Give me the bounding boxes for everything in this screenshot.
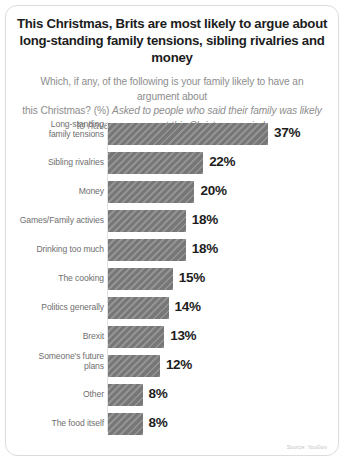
bar	[108, 384, 143, 406]
chart-card: This Christmas, Brits are most likely to…	[5, 5, 339, 456]
bar-value-label: 12%	[166, 357, 192, 372]
bar-value-label: 18%	[192, 241, 218, 256]
bar-category-label: Drinking too much	[12, 244, 104, 254]
bar-row: Drinking too much18%	[6, 239, 340, 261]
bar-category-label: The cooking	[12, 273, 104, 283]
source-attribution: Source: YouGov	[287, 444, 327, 450]
bar-row: Someone's futureplans12%	[6, 355, 340, 377]
bar	[108, 152, 203, 174]
bar	[108, 326, 164, 348]
bar	[108, 413, 143, 435]
bar-row: Other8%	[6, 384, 340, 406]
chart-subtitle-line-1: Which, if any, of the following is your …	[22, 75, 322, 104]
bar-category-label: Someone's futureplans	[12, 351, 104, 372]
bar-row: Long-standingfamily tensions37%	[6, 123, 340, 145]
bar-category-label: Money	[12, 186, 104, 196]
chart-subtitle-line-2: this Christmas? (%) Asked to people who …	[22, 104, 322, 119]
bar-row: Sibling rivalries22%	[6, 152, 340, 174]
bar-category-label: Games/Family activies	[12, 215, 104, 225]
bar	[108, 297, 169, 319]
bar-value-label: 18%	[192, 212, 218, 227]
bar-category-label: Long-standingfamily tensions	[12, 119, 104, 140]
bar-value-label: 15%	[179, 270, 205, 285]
bar-value-label: 14%	[175, 299, 201, 314]
bar-category-label: Politics generally	[12, 302, 104, 312]
bar-row: Games/Family activies18%	[6, 210, 340, 232]
bar	[108, 268, 173, 290]
bar-category-label: Brexit	[12, 331, 104, 341]
bar-category-label: Sibling rivalries	[12, 157, 104, 167]
bar	[108, 123, 268, 145]
bar-row: Politics generally14%	[6, 297, 340, 319]
bar-value-label: 8%	[149, 415, 168, 430]
bar	[108, 239, 186, 261]
chart-title: This Christmas, Brits are most likely to…	[16, 15, 328, 66]
bar-row: Brexit13%	[6, 326, 340, 348]
bar-row: The cooking15%	[6, 268, 340, 290]
bar-value-label: 37%	[274, 125, 300, 140]
bar	[108, 355, 160, 377]
bar-value-label: 8%	[149, 386, 168, 401]
bar-value-label: 20%	[200, 183, 226, 198]
bar	[108, 210, 186, 232]
chart-subtitle-question: this Christmas? (%)	[22, 105, 112, 116]
bar-value-label: 13%	[170, 328, 196, 343]
bar-value-label: 22%	[209, 154, 235, 169]
bar-category-label: The food itself	[12, 418, 104, 428]
bar-chart-plot: Long-standingfamily tensions37%Sibling r…	[6, 118, 340, 436]
chart-title-line-2: long-standing family tensions, sibling r…	[16, 32, 328, 66]
bar-row: Money20%	[6, 181, 340, 203]
chart-subtitle-note-a: Asked to people who said their family wa…	[112, 105, 322, 116]
bar-row: The food itself8%	[6, 413, 340, 435]
bar	[108, 181, 194, 203]
chart-title-line-1: This Christmas, Brits are most likely to…	[16, 15, 328, 32]
bar-category-label: Other	[12, 389, 104, 399]
